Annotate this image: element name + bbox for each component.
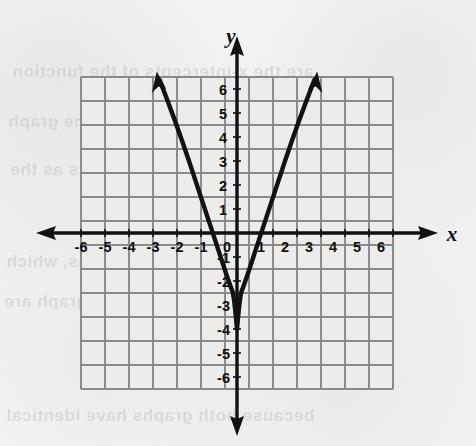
- y-tick-label: -5: [217, 346, 230, 362]
- x-tick-label: -2: [171, 239, 184, 255]
- graph-page: are the x-intercepts of the function ati…: [0, 0, 476, 446]
- x-tick-label: 5: [353, 239, 361, 255]
- x-tick-label: 3: [305, 239, 313, 255]
- y-axis-label: y: [223, 24, 236, 48]
- x-tick-label: -6: [75, 239, 88, 255]
- x-tick-label: -5: [99, 239, 112, 255]
- x-tick-label: 2: [281, 239, 289, 255]
- x-axis-arrow-right: [418, 226, 438, 240]
- y-tick-label: 2: [219, 178, 227, 194]
- x-tick-label: -3: [147, 239, 160, 255]
- y-tick-label: 1: [219, 202, 227, 218]
- x-tick-label: 6: [377, 239, 385, 255]
- y-axis-arrow-down: [230, 416, 244, 436]
- x-tick-label: -1: [195, 239, 208, 255]
- x-tick-label: -4: [123, 239, 136, 255]
- y-tick-label: -4: [217, 322, 230, 338]
- y-tick-label: 5: [219, 106, 227, 122]
- x-axis-arrow-left: [36, 226, 56, 240]
- y-tick-label: 3: [219, 154, 227, 170]
- x-axis-label: x: [446, 222, 458, 246]
- coordinate-plane: -6 -5 -4 -3 -2 -1 0 1 2 3 4 5 6 6 5 4 3 …: [0, 0, 476, 446]
- y-tick-label: -3: [217, 298, 230, 314]
- y-tick-label: -6: [217, 370, 230, 386]
- y-tick-label: 4: [219, 130, 227, 146]
- y-tick-label: 6: [219, 82, 227, 98]
- x-tick-label: 4: [329, 239, 337, 255]
